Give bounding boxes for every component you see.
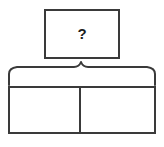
diagram-canvas: ? bbox=[0, 0, 164, 147]
part-right[interactable] bbox=[80, 87, 155, 133]
part-left[interactable] bbox=[9, 87, 80, 133]
whole-label: ? bbox=[77, 25, 86, 42]
curly-brace-up-icon bbox=[9, 62, 155, 85]
bar-model-diagram: ? bbox=[0, 0, 164, 147]
